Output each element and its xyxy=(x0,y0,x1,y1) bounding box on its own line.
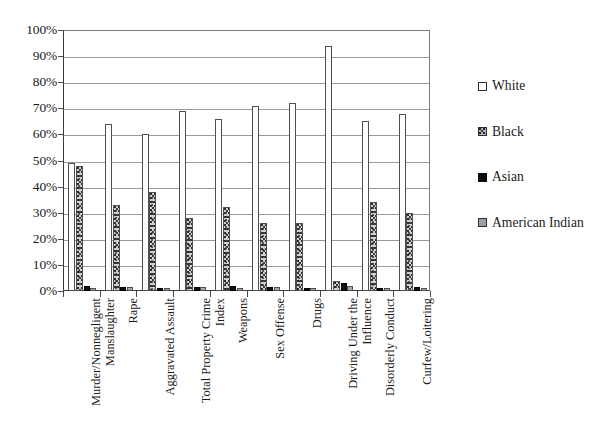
chart-container: 0%10%20%30%40%50%60%70%80%90%100% Murder… xyxy=(0,0,611,445)
y-axis-tick-mark xyxy=(58,213,63,214)
bar xyxy=(325,46,332,291)
x-axis-category-label: Aggravated Assault xyxy=(164,298,204,416)
y-axis-tick-mark xyxy=(58,56,63,57)
gridline xyxy=(64,188,429,189)
bar xyxy=(142,134,149,291)
y-axis-tick-label: 80% xyxy=(5,75,57,89)
y-axis-tick-label: 70% xyxy=(5,101,57,115)
bar xyxy=(90,288,96,291)
category-label-line: Index xyxy=(214,298,228,326)
category-label-line: Rape xyxy=(127,298,141,323)
y-axis-tick-label: 0% xyxy=(5,284,57,298)
x-axis-category-label: Disorderly Conduct xyxy=(384,298,424,416)
category-label-line: Driving Under the xyxy=(347,298,361,389)
x-axis-category-label: Murder/NonnegligentManslaughter xyxy=(90,298,130,416)
x-axis-category-label: Drugs xyxy=(311,298,351,416)
x-axis-tick-mark xyxy=(210,291,211,297)
legend-item-label: Black xyxy=(492,125,524,139)
bar xyxy=(377,288,383,291)
bar xyxy=(267,287,273,291)
x-axis-category-label: Total Property CrimeIndex xyxy=(200,298,240,416)
x-axis-category-label: Rape xyxy=(127,298,167,416)
x-axis-tick-mark xyxy=(430,291,431,297)
y-axis-tick-mark xyxy=(58,265,63,266)
x-axis-tick-mark xyxy=(63,291,64,297)
bar xyxy=(179,111,186,291)
legend-item-label: White xyxy=(492,79,525,93)
x-axis-tick-mark xyxy=(283,291,284,297)
legend-swatch-icon xyxy=(478,173,487,182)
legend-item-white[interactable]: White xyxy=(478,79,525,93)
bar xyxy=(76,166,83,291)
category-label-line: Manslaughter xyxy=(104,298,118,366)
y-axis-tick-mark xyxy=(58,30,63,31)
bar xyxy=(304,288,310,291)
x-axis-category-label: Curfew/Loitering xyxy=(421,298,461,416)
legend-item-amind[interactable]: American Indian xyxy=(478,216,584,230)
y-axis-tick-label: 20% xyxy=(5,232,57,246)
legend-swatch-icon xyxy=(478,127,487,136)
category-label-line: Sex Offense xyxy=(274,298,288,359)
legend-item-label: Asian xyxy=(492,170,524,184)
x-axis-category-label: Sex Offense xyxy=(274,298,314,416)
bar xyxy=(384,288,390,291)
y-axis-tick-mark xyxy=(58,134,63,135)
bar xyxy=(370,202,377,291)
y-axis-tick-label: 90% xyxy=(5,49,57,63)
bar xyxy=(347,286,353,291)
bar xyxy=(406,213,413,291)
legend-item-label: American Indian xyxy=(492,216,584,230)
bar xyxy=(333,281,340,291)
x-axis-tick-mark xyxy=(393,291,394,297)
bar xyxy=(164,288,170,291)
bar xyxy=(341,283,347,291)
x-axis-category-label: Driving Under theInfluence xyxy=(347,298,387,416)
x-axis-tick-mark xyxy=(173,291,174,297)
y-axis-tick-mark xyxy=(58,187,63,188)
bar xyxy=(113,205,120,291)
category-label-line: Weapons xyxy=(237,298,251,343)
legend-item-asian[interactable]: Asian xyxy=(478,170,524,184)
category-label-line: Total Property Crime xyxy=(200,298,214,403)
legend-swatch-icon xyxy=(478,218,487,227)
bar xyxy=(105,124,112,291)
bar xyxy=(252,106,259,291)
x-axis-category-label: Weapons xyxy=(237,298,277,416)
bar xyxy=(310,288,316,291)
y-axis-tick-mark xyxy=(58,239,63,240)
bar xyxy=(200,287,206,291)
bar xyxy=(237,288,243,291)
y-axis-tick-label: 40% xyxy=(5,180,57,194)
y-axis-tick-label: 10% xyxy=(5,258,57,272)
y-axis-tick-label: 100% xyxy=(5,23,57,37)
bar xyxy=(362,121,369,291)
gridline xyxy=(64,162,429,163)
bar xyxy=(296,223,303,291)
bar xyxy=(149,192,156,291)
gridline xyxy=(64,57,429,58)
y-axis-tick-label: 50% xyxy=(5,154,57,168)
y-axis-tick-mark xyxy=(58,161,63,162)
y-axis-tick-mark xyxy=(58,82,63,83)
gridline xyxy=(64,83,429,84)
y-axis-tick-label: 60% xyxy=(5,127,57,141)
bar xyxy=(260,223,267,291)
bar xyxy=(84,286,90,291)
gridline xyxy=(64,109,429,110)
category-label-line: Drugs xyxy=(311,298,325,328)
x-axis-tick-mark xyxy=(357,291,358,297)
bar xyxy=(289,103,296,291)
legend-item-black[interactable]: Black xyxy=(478,125,524,139)
bar xyxy=(120,287,126,291)
bar xyxy=(399,114,406,291)
bar xyxy=(421,288,427,291)
x-axis-tick-mark xyxy=(247,291,248,297)
category-label-line: Aggravated Assault xyxy=(164,298,178,395)
gridline xyxy=(64,135,429,136)
category-label-line: Influence xyxy=(361,298,375,345)
bar xyxy=(274,287,280,291)
y-axis-tick-label: 30% xyxy=(5,206,57,220)
bar xyxy=(68,163,75,291)
bar xyxy=(414,287,420,291)
x-axis-tick-mark xyxy=(320,291,321,297)
